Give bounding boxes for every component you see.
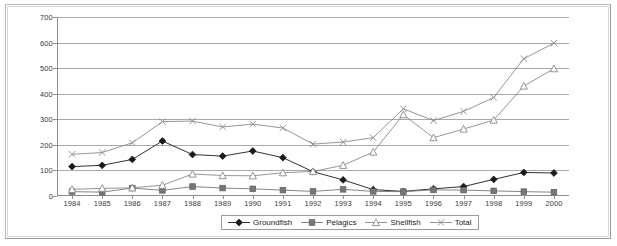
- data-point-diamond-icon: [189, 151, 196, 158]
- series-line: [72, 141, 554, 191]
- series-line: [72, 43, 554, 154]
- x-tick-mark: [433, 196, 434, 199]
- x-tick-label: 1988: [184, 199, 201, 208]
- x-tick-label: 1994: [365, 199, 382, 208]
- data-point-square-icon: [190, 184, 196, 190]
- data-point-x-icon: [129, 140, 135, 146]
- legend-x-icon: [430, 218, 452, 227]
- x-tick-label: 1996: [425, 199, 442, 208]
- data-point-x-icon: [491, 94, 497, 100]
- series-shellfish: [68, 65, 557, 192]
- data-point-diamond-icon: [159, 138, 166, 145]
- data-point-x-icon: [460, 108, 466, 114]
- data-point-square-icon: [521, 189, 527, 195]
- data-point-square-icon: [250, 186, 256, 192]
- data-point-diamond-icon: [219, 153, 226, 160]
- legend-square-icon: [301, 218, 323, 227]
- y-tick-label: 200: [40, 140, 53, 149]
- legend-label: Shellfish: [390, 218, 420, 227]
- x-tick-label: 1986: [124, 199, 141, 208]
- chart-screenshot: 0100200300400500600700 19841985198619871…: [0, 0, 617, 246]
- data-point-triangle-icon: [550, 65, 557, 72]
- x-tick-label: 1985: [94, 199, 111, 208]
- data-point-square-icon: [280, 187, 286, 193]
- data-point-diamond-icon: [340, 176, 347, 183]
- data-point-square-icon: [431, 187, 437, 193]
- legend-label: Pelagics: [326, 218, 356, 227]
- x-tick-mark: [72, 196, 73, 199]
- x-tick-mark: [313, 196, 314, 199]
- y-tick-label: 500: [40, 64, 53, 73]
- x-tick-label: 1987: [154, 199, 171, 208]
- data-point-x-icon: [521, 55, 527, 61]
- x-tick-label: 2000: [545, 199, 562, 208]
- data-point-triangle-icon: [340, 162, 347, 169]
- x-tick-mark: [403, 196, 404, 199]
- x-tick-mark: [102, 196, 103, 199]
- legend-entry-total[interactable]: Total: [430, 218, 472, 227]
- data-point-diamond-icon: [551, 170, 558, 177]
- x-tick-mark: [494, 196, 495, 199]
- y-tick-label: 300: [40, 115, 53, 124]
- data-point-triangle-icon: [460, 125, 467, 132]
- legend-entry-pelagics[interactable]: Pelagics: [301, 218, 356, 227]
- series-pelagics: [69, 184, 556, 195]
- data-point-square-icon: [461, 187, 467, 193]
- data-point-diamond-icon: [69, 163, 76, 170]
- series-total: [69, 40, 557, 158]
- x-tick-mark: [193, 196, 194, 199]
- chart-legend: GroundfishPelagicsShellfishTotal: [221, 215, 479, 230]
- data-point-diamond-icon: [249, 148, 256, 155]
- x-tick-label: 1990: [244, 199, 261, 208]
- x-tick-mark: [162, 196, 163, 199]
- data-point-square-icon: [220, 185, 226, 191]
- x-tick-mark: [223, 196, 224, 199]
- x-tick-label: 1984: [64, 199, 81, 208]
- data-point-square-icon: [491, 188, 497, 194]
- x-tick-label: 1992: [304, 199, 321, 208]
- data-point-x-icon: [430, 117, 436, 123]
- legend-triangle-icon: [365, 218, 387, 227]
- data-point-diamond-icon: [129, 156, 136, 163]
- x-tick-label: 1998: [485, 199, 502, 208]
- data-point-triangle-icon: [520, 82, 527, 89]
- x-tick-mark: [253, 196, 254, 199]
- y-tick-label: 600: [40, 38, 53, 47]
- y-tick-label: 100: [40, 166, 53, 175]
- x-tick-label: 1991: [274, 199, 291, 208]
- legend-label: Groundfish: [253, 218, 292, 227]
- data-point-square-icon: [551, 189, 557, 195]
- data-point-diamond-icon: [490, 176, 497, 183]
- x-tick-mark: [283, 196, 284, 199]
- x-tick-label: 1989: [214, 199, 231, 208]
- data-point-square-icon: [310, 189, 316, 195]
- x-tick-mark: [132, 196, 133, 199]
- data-point-square-icon: [401, 189, 407, 195]
- data-point-diamond-icon: [279, 154, 286, 161]
- y-tick-label: 400: [40, 89, 53, 98]
- y-tick-label: 700: [40, 13, 53, 22]
- data-point-x-icon: [551, 40, 557, 46]
- x-tick-label: 1999: [515, 199, 532, 208]
- x-tick-mark: [524, 196, 525, 199]
- x-tick-label: 1997: [455, 199, 472, 208]
- x-tick-mark: [464, 196, 465, 199]
- data-point-triangle-icon: [400, 111, 407, 118]
- legend-diamond-icon: [228, 218, 250, 227]
- legend-entry-shellfish[interactable]: Shellfish: [365, 218, 420, 227]
- x-tick-label: 1995: [395, 199, 412, 208]
- x-tick-mark: [373, 196, 374, 199]
- x-axis: 1984198519861987198819891990199119921993…: [57, 196, 569, 212]
- series-layer: [57, 17, 569, 196]
- series-groundfish: [69, 138, 558, 195]
- data-point-triangle-icon: [430, 134, 437, 141]
- legend-entry-groundfish[interactable]: Groundfish: [228, 218, 292, 227]
- chart-plot-wrapper: 0100200300400500600700 19841985198619871…: [0, 0, 617, 246]
- data-point-triangle-icon: [159, 182, 166, 189]
- x-tick-label: 1993: [335, 199, 352, 208]
- data-point-square-icon: [340, 187, 346, 193]
- data-point-diamond-icon: [520, 169, 527, 176]
- x-tick-mark: [343, 196, 344, 199]
- legend-label: Total: [455, 218, 472, 227]
- data-point-square-icon: [370, 189, 376, 195]
